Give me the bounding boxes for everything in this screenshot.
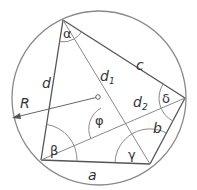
angle-label-gamma: γ [128, 147, 136, 162]
angle-arc-alpha-outer [74, 32, 81, 39]
diagonal-d2 [41, 98, 185, 160]
diagonal-label-d1: d1 [100, 68, 115, 86]
angle-label-phi: φ [95, 113, 104, 128]
angle-label-alpha: α [63, 26, 72, 41]
center-marker [96, 95, 101, 100]
radius-label: R [20, 95, 30, 111]
diagonal-label-d2: d2 [133, 94, 148, 112]
side-label-b: b [153, 120, 162, 136]
side-label-c: c [136, 57, 144, 73]
angle-label-delta: δ [162, 91, 170, 106]
cyclic-quadrilateral-diagram: α β γ δ φ a b c d d1 d2 R [0, 0, 197, 190]
side-label-a: a [88, 167, 97, 183]
diagram-canvas: α β γ δ φ a b c d d1 d2 R [0, 0, 197, 190]
diagonal-d1 [63, 20, 150, 164]
angle-label-beta: β [50, 143, 58, 158]
side-label-d: d [42, 75, 51, 91]
